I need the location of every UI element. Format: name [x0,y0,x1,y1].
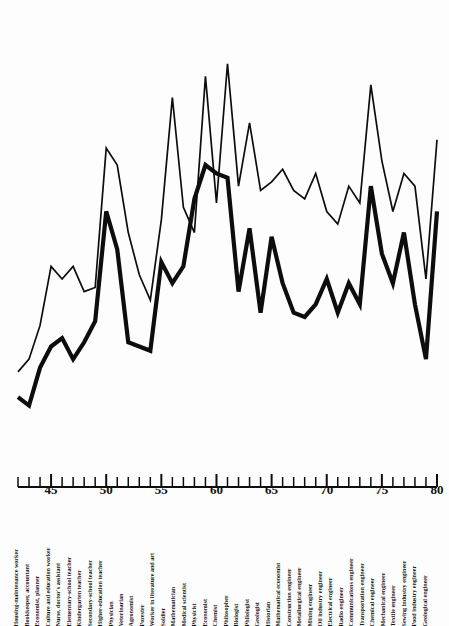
category-label: Transportation engineer [358,563,365,626]
x-tick-label: 60 [210,482,223,498]
category-label: Mining engineer [306,583,313,626]
x-tick-label: 55 [155,482,168,498]
x-tick-label: 50 [100,482,113,498]
category-label: Electrical engineer [327,577,334,626]
category-label: Mechanical engineer [379,572,386,626]
category-label: Geological engineer [421,575,428,626]
line-chart-svg [0,0,449,480]
category-label: Biologist [233,603,240,626]
category-label: Kindergarten teacher [76,570,83,626]
category-label: Sewing industry engineer [400,560,407,626]
category-label: Nurse, doctor's assistant [55,563,62,626]
category-label: Culture and education worker [44,547,51,626]
category-label: Forester [138,604,145,626]
category-label: Medical scientist [180,583,187,626]
x-tick-label: 80 [431,482,444,498]
category-label: Communications engineer [348,558,355,626]
category-label: Construction engineer [285,568,292,626]
category-label: Philologist [243,599,250,626]
category-label: Chemical engineer [369,577,376,626]
category-label: Soldier [159,607,166,626]
category-label: Bookkeeper, accountant [23,564,30,626]
category-label: Oil industry engineer [317,570,324,626]
category-label: Food industry engineer [411,565,418,626]
x-tick-label: 75 [375,482,388,498]
category-label: Higher-education teacher [97,560,104,626]
category-label: Mathematical economist [275,562,282,626]
category-label: Agronomist [128,595,135,626]
category-label: Secondary-school teacher [86,559,93,626]
category-label: Radio engineer [337,587,344,626]
category-label: Mathematician [170,586,177,626]
category-label: Chemist [212,604,219,626]
category-label: Physician [107,601,114,626]
x-tick-label: 45 [45,482,58,498]
category-label: Geologist [254,602,261,626]
chart-page: 4550556065707580 Housing-maintenance wor… [0,0,449,626]
category-label: Worker in literature and art [149,552,156,626]
category-label: Physicist [191,603,198,626]
category-label: Economist [201,599,208,626]
category-label: Metallurgical engineer [296,567,303,626]
category-label: Housing-maintenance worker [13,549,20,626]
category-label: Philosopher [222,595,229,626]
category-label: Textile engineer [390,585,397,626]
x-axis-tick-labels: 4550556065707580 [0,482,449,504]
category-label: Historian [264,601,271,626]
category-label: Economist, planner [34,575,41,626]
x-tick-label: 70 [320,482,333,498]
plot-area [0,0,449,480]
category-label: Veterinarian [117,593,124,626]
category-label: Elementary-school teacher [65,556,72,626]
x-tick-label: 65 [265,482,278,498]
category-labels: Housing-maintenance workerBookkeeper, ac… [0,506,449,626]
